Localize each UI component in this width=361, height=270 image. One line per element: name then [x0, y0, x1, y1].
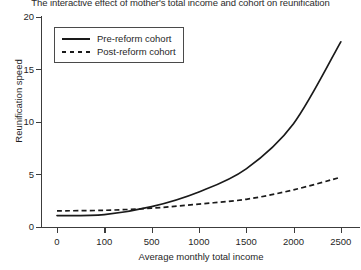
series-line-post-reform-cohort [57, 177, 341, 211]
legend-line-dashed-icon [60, 47, 92, 57]
series-line-pre-reform-cohort [57, 42, 341, 216]
chart-legend: Pre-reform cohort Post-reform cohort [54, 27, 184, 63]
chart-figure: The interactive effect of mother's total… [0, 0, 361, 270]
legend-item-post-reform-cohort: Post-reform cohort [60, 45, 176, 58]
legend-line-solid-icon [60, 34, 92, 44]
legend-label-pre-reform-cohort: Pre-reform cohort [97, 34, 171, 44]
legend-label-post-reform-cohort: Post-reform cohort [97, 47, 176, 57]
legend-item-pre-reform-cohort: Pre-reform cohort [60, 32, 176, 45]
